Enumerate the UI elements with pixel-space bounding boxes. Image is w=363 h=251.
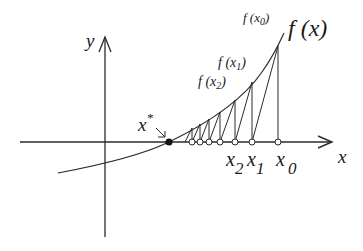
root-label: x* <box>137 110 153 135</box>
x-axis <box>20 136 332 148</box>
x4-marker <box>206 139 212 145</box>
x1-label: x1 <box>246 148 264 178</box>
f-x1-label: f (x1) <box>218 55 246 72</box>
x5-marker <box>197 139 203 145</box>
f-x0-label: f (x0) <box>243 10 269 27</box>
diagram-canvas: y x x* f (x) f (x0) f (x1) f (x2) x2 x1 … <box>0 0 363 251</box>
x3-marker <box>217 139 223 145</box>
f-x2-label: f (x2) <box>198 74 226 91</box>
x2-marker <box>232 139 238 145</box>
x0-marker <box>275 139 281 145</box>
x-axis-label: x <box>337 146 347 167</box>
x2-label: x2 <box>225 148 244 178</box>
newton-method-diagram: y x x* f (x) f (x0) f (x1) f (x2) x2 x1 … <box>0 0 363 251</box>
y-axis <box>99 37 111 237</box>
curve-label: f (x) <box>288 15 327 41</box>
y-axis-label: y <box>84 30 95 51</box>
x0-label: x0 <box>275 148 297 178</box>
root-pointer-arrow-icon <box>156 128 165 137</box>
x1-marker <box>249 139 255 145</box>
root-marker <box>166 139 173 146</box>
x6-marker <box>189 139 195 145</box>
